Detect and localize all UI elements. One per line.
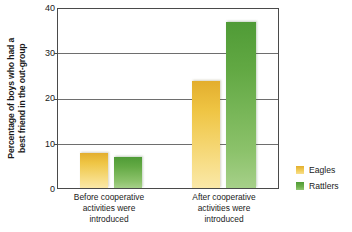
legend-label-eagles: Eagles — [309, 165, 335, 175]
bar-eagles-after — [192, 81, 220, 188]
x-category-before-line-2: activities were — [57, 203, 161, 214]
bar-rattlers-before — [114, 157, 142, 188]
y-tick-label-10: 10 — [35, 140, 55, 149]
x-category-label-before: Before cooperative activities were intro… — [57, 192, 161, 226]
bar-rattlers-after — [226, 22, 256, 188]
bar-chart: Percentage of boys who had a best friend… — [0, 0, 352, 232]
y-tick-label-0: 0 — [35, 185, 55, 194]
legend-swatch-eagles-icon — [296, 166, 304, 174]
x-category-after-line-2: activities were — [172, 203, 276, 214]
x-category-before-line-1: Before cooperative — [57, 192, 161, 203]
y-tick-label-20: 20 — [35, 94, 55, 103]
legend-swatch-rattlers-icon — [296, 182, 304, 190]
y-tick-label-30: 30 — [35, 49, 55, 58]
y-axis-title-line-1: Percentage of boys who had a — [6, 38, 17, 159]
x-category-label-after: After cooperative activities were introd… — [172, 192, 276, 226]
tickmark-30 — [54, 53, 58, 54]
legend-label-rattlers: Rattlers — [309, 181, 339, 191]
tickmark-10 — [54, 144, 58, 145]
y-axis-title-line-2: best friend in the out-group — [17, 38, 28, 159]
legend-item-rattlers: Rattlers — [296, 179, 352, 193]
plot-area — [57, 8, 279, 189]
tickmark-20 — [54, 99, 58, 100]
legend-item-eagles: Eagles — [296, 163, 352, 177]
y-axis-tick-labels: 40 30 20 10 0 — [34, 0, 55, 232]
bar-eagles-before — [80, 153, 108, 188]
y-tick-label-40: 40 — [35, 4, 55, 13]
x-category-after-line-3: introduced — [172, 214, 276, 225]
y-axis-title: Percentage of boys who had a best friend… — [0, 0, 34, 196]
legend: Eagles Rattlers — [296, 163, 352, 195]
x-category-before-line-3: introduced — [57, 214, 161, 225]
x-category-after-line-1: After cooperative — [172, 192, 276, 203]
